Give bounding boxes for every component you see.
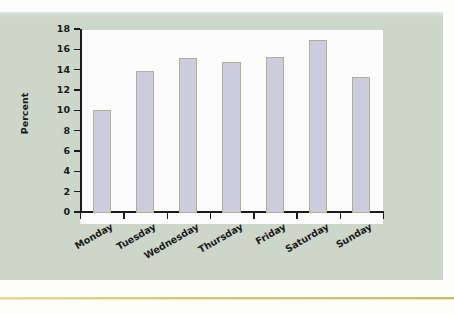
x-axis-tick xyxy=(253,212,254,219)
x-axis-tick xyxy=(80,212,81,219)
panel-top-sheen xyxy=(0,12,443,17)
y-axis-tick-label-text: 8 xyxy=(46,126,70,136)
bar[interactable] xyxy=(136,71,154,213)
y-axis-tick-label-text: 6 xyxy=(46,146,70,156)
x-axis-tick xyxy=(210,212,211,219)
y-axis-tick-label-text: 12 xyxy=(46,85,70,95)
y-axis-tick-label-text: 10 xyxy=(46,105,70,115)
y-axis-tick-label-text: 18 xyxy=(46,24,70,34)
x-axis-tick xyxy=(340,212,341,219)
y-axis-tick-label: 12 xyxy=(42,85,70,95)
y-axis-tick-label: 4 xyxy=(42,166,70,176)
gold-divider-shadow xyxy=(0,299,454,300)
bar[interactable] xyxy=(179,58,197,213)
y-axis-title: Percent xyxy=(19,84,30,144)
page-root: Percent 024681012141618 MondayTuesdayWed… xyxy=(0,0,454,313)
y-axis-tick-label-text: 16 xyxy=(46,44,70,54)
x-axis-tick xyxy=(383,212,384,219)
y-axis-tick-label: 16 xyxy=(42,44,70,54)
bar[interactable] xyxy=(309,40,327,213)
y-axis-tick-label: 18 xyxy=(42,24,70,34)
y-axis-tick-label-text: 14 xyxy=(46,65,70,75)
y-axis-tick-label: 14 xyxy=(42,65,70,75)
y-axis-tick-label: 2 xyxy=(42,187,70,197)
bar[interactable] xyxy=(352,77,370,213)
y-axis-tick-label-text: 4 xyxy=(46,166,70,176)
chart-figure-panel: Percent 024681012141618 MondayTuesdayWed… xyxy=(0,12,443,280)
bars-layer xyxy=(80,30,383,213)
y-axis-tick-label: 0 xyxy=(42,207,70,217)
bar[interactable] xyxy=(266,57,284,213)
y-axis-tick-label: 8 xyxy=(42,126,70,136)
x-axis-tick xyxy=(123,212,124,219)
x-axis-tick xyxy=(296,212,297,219)
bar[interactable] xyxy=(93,110,111,213)
x-axis-tick xyxy=(167,212,168,219)
y-axis-tick-label: 6 xyxy=(42,146,70,156)
y-axis-tick-label-text: 0 xyxy=(46,207,70,217)
y-axis-tick-label-text: 2 xyxy=(46,187,70,197)
y-axis-tick-label: 10 xyxy=(42,105,70,115)
bar[interactable] xyxy=(222,62,240,213)
